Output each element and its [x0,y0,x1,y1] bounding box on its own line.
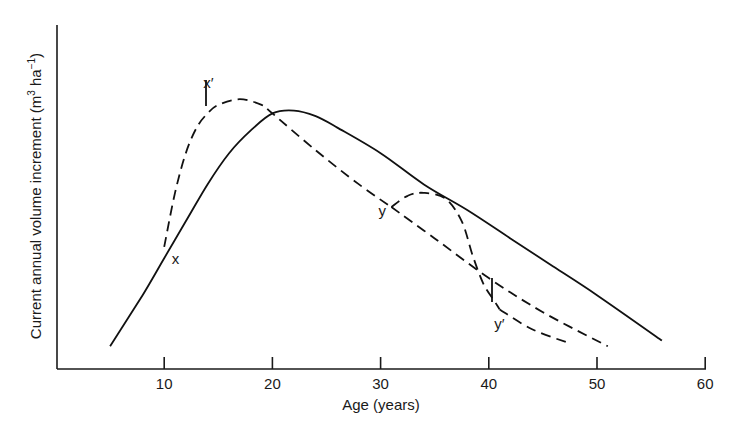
x-tick-label: 20 [264,375,281,392]
annotation-label: y′ [494,315,505,332]
dashed-curve-4 [500,309,570,343]
x-axis-label: Age (years) [342,396,420,413]
x-axis-ticks [164,357,705,369]
x-tick-label: 40 [480,375,497,392]
y-axis-label: Current annual volume increment (m3 ha−1… [26,53,44,339]
x-tick-label: 30 [372,375,389,392]
x-tick-label: 10 [156,375,173,392]
annotation-label: x [172,250,180,267]
x-tick-label: 50 [589,375,606,392]
dashed-curve-3 [391,193,499,310]
dashed-curve-1 [164,99,391,247]
chart-series [110,99,662,346]
solid-curve-0 [110,110,662,346]
annotation-label: x′ [203,74,214,91]
x-axis-tick-labels: 102030405060 [156,375,714,392]
cai-chart: 102030405060 Age (years) Current annual … [0,0,729,433]
x-tick-label: 60 [697,375,714,392]
annotation-label: y [378,202,386,219]
